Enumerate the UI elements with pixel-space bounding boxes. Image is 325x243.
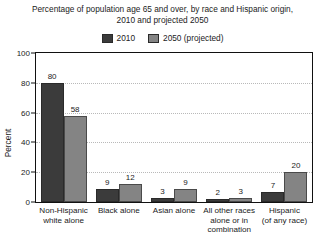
bar-value-label: 3 xyxy=(160,187,164,196)
legend-item-2010: 2010 xyxy=(102,33,135,43)
bar-value-label: 2 xyxy=(215,188,219,197)
bar: 9 xyxy=(96,189,119,202)
bar-value-label: 3 xyxy=(238,187,242,196)
chart-title-line-1: Percentage of population age 65 and over… xyxy=(0,4,325,15)
x-axis-label-line: combination xyxy=(202,225,257,235)
x-axis-label-line: white alone xyxy=(36,216,91,226)
bar-group: 39 xyxy=(146,53,201,202)
bar: 7 xyxy=(261,192,284,202)
y-tick-label-20: 20 xyxy=(0,168,35,177)
bar-group: 912 xyxy=(91,53,146,202)
legend-swatch-2050-icon xyxy=(148,34,159,43)
x-axis-label-line: Hispanic xyxy=(257,206,312,216)
bar: 3 xyxy=(151,198,174,202)
bar-group: 8058 xyxy=(36,53,91,202)
x-axis-label-line: alone or in xyxy=(202,216,257,226)
x-axis-label-line: All other races xyxy=(202,206,257,216)
chart-title-line-2: 2010 and projected 2050 xyxy=(0,15,325,26)
bar-value-label: 12 xyxy=(126,173,135,182)
bar-groups: 80589123923720 xyxy=(36,53,312,202)
x-axis-label: All other racesalone or incombination xyxy=(202,206,257,235)
y-tick-label-100: 100 xyxy=(0,49,35,58)
y-tick-label-80: 80 xyxy=(0,78,35,87)
legend-swatch-2010-icon xyxy=(102,34,113,43)
x-axis-label-line: Black alone xyxy=(91,206,146,216)
y-tick-label-40: 40 xyxy=(0,138,35,147)
bar-chart: Percentage of population age 65 and over… xyxy=(0,0,325,243)
bar: 12 xyxy=(119,184,142,202)
x-axis-label: Black alone xyxy=(91,206,146,235)
bar: 2 xyxy=(206,199,229,202)
bar-value-label: 9 xyxy=(183,178,187,187)
y-tick-label-0: 0 xyxy=(0,198,35,207)
x-axis-label: Non-Hispanicwhite alone xyxy=(36,206,91,235)
bar-group: 23 xyxy=(202,53,257,202)
bar: 9 xyxy=(174,189,197,202)
y-tick-label-60: 60 xyxy=(0,108,35,117)
x-axis-label: Hispanic(of any race) xyxy=(257,206,312,235)
bar-value-label: 80 xyxy=(48,72,57,81)
chart-title: Percentage of population age 65 and over… xyxy=(0,4,325,26)
legend-label-2050: 2050 (projected) xyxy=(163,33,223,43)
bar: 80 xyxy=(41,83,64,202)
x-axis-labels: Non-Hispanicwhite aloneBlack aloneAsian … xyxy=(36,206,312,235)
x-axis-label-line: (of any race) xyxy=(257,216,312,226)
x-axis-label: Asian alone xyxy=(146,206,201,235)
bar-value-label: 20 xyxy=(291,161,300,170)
bar-group: 720 xyxy=(257,53,312,202)
bar: 20 xyxy=(284,172,307,202)
bar-value-label: 58 xyxy=(71,105,80,114)
y-axis: Percent 100806040200 xyxy=(0,52,35,204)
x-axis-label-line: Asian alone xyxy=(146,206,201,216)
chart-legend: 2010 2050 (projected) xyxy=(0,33,325,43)
bar-value-label: 9 xyxy=(105,178,109,187)
bar-value-label: 7 xyxy=(271,181,275,190)
bar: 58 xyxy=(64,116,87,202)
legend-item-2050: 2050 (projected) xyxy=(148,33,223,43)
bar: 3 xyxy=(229,198,252,202)
legend-label-2010: 2010 xyxy=(117,33,135,43)
x-axis-label-line: Non-Hispanic xyxy=(36,206,91,216)
